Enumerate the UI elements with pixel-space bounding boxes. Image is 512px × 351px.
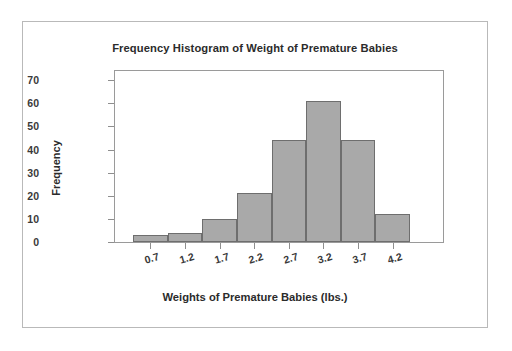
x-axis-tick-mark xyxy=(220,243,221,249)
histogram-bar xyxy=(306,101,341,242)
y-axis-tick-label: 40 xyxy=(5,145,39,156)
y-axis-tick-mark xyxy=(108,103,114,104)
histogram-bar xyxy=(272,140,307,242)
y-axis-tick-mark xyxy=(108,126,114,127)
bars-group xyxy=(115,71,443,242)
x-axis-tick-mark xyxy=(323,243,324,249)
y-axis-tick-label: 60 xyxy=(5,98,39,109)
x-axis-tick-mark xyxy=(289,243,290,249)
y-axis-tick-mark xyxy=(108,242,114,243)
histogram-page: Frequency Histogram of Weight of Prematu… xyxy=(0,0,512,351)
histogram-bar xyxy=(375,214,410,242)
x-axis-tick-mark xyxy=(358,243,359,249)
x-axis-tick-mark xyxy=(150,243,151,249)
y-axis-tick-mark xyxy=(108,173,114,174)
histogram-bar xyxy=(168,233,203,242)
y-axis-tick-label: 0 xyxy=(5,237,39,248)
y-axis-tick-label: 70 xyxy=(5,75,39,86)
x-axis-tick-mark xyxy=(393,243,394,249)
y-axis-tick-mark xyxy=(108,219,114,220)
x-axis-title: Weights of Premature Babies (lbs.) xyxy=(22,291,488,303)
y-axis-tick-label: 10 xyxy=(5,214,39,225)
y-axis-tick-label: 30 xyxy=(5,168,39,179)
x-axis-tick-mark xyxy=(254,243,255,249)
plot-area xyxy=(115,71,443,242)
y-axis-tick-mark xyxy=(108,196,114,197)
histogram-bar xyxy=(341,140,376,242)
histogram-bar xyxy=(133,235,168,242)
y-axis-tick-label: 20 xyxy=(5,191,39,202)
y-axis-tick-label: 50 xyxy=(5,121,39,132)
y-axis-tick-mark xyxy=(108,150,114,151)
histogram-bar xyxy=(202,219,237,242)
y-axis-tick-mark xyxy=(108,80,114,81)
x-axis-tick-mark xyxy=(185,243,186,249)
histogram-bar xyxy=(237,193,272,242)
